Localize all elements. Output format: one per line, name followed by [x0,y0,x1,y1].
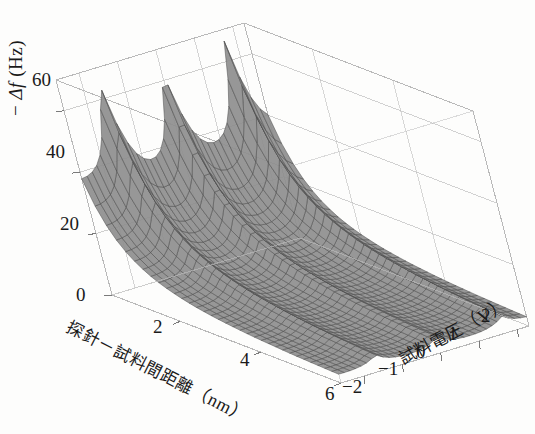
z-axis-unit: (Hz) [5,40,26,77]
z-tick-label-1: 20 [60,214,79,233]
x-tick-label-0: 2 [153,317,163,336]
x-tick-label-2: 6 [325,384,335,403]
z-tick-label-0: 0 [76,285,86,304]
plot-canvas [0,0,535,434]
z-tick-label-2: 40 [46,142,65,161]
z-axis-title: − Δf (Hz) [6,40,25,116]
y-tick-label-1: −1 [378,359,398,378]
surface-plot-figure: 0204060 246 −2−1012 − Δf (Hz) 探針－試料間距離（n… [0,0,535,434]
z-tick-label-3: 60 [32,70,51,89]
x-tick-label-1: 4 [240,350,250,369]
z-axis-symbol: Δf [5,82,26,99]
y-tick-label-0: −2 [342,377,362,396]
z-axis-minus: − [5,105,26,116]
